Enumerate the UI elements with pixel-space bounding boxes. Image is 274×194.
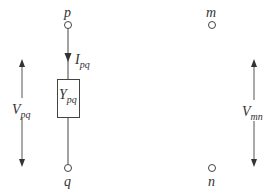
- label-voltage-vmn: Vmn: [242, 103, 263, 119]
- terminal-p: [65, 22, 72, 29]
- element-symbol: Y: [59, 87, 67, 102]
- terminal-n: [209, 165, 216, 172]
- arrow-down-icon: [251, 159, 257, 167]
- voltage-symbol: V: [242, 104, 251, 119]
- element-subscript: pq: [67, 94, 77, 105]
- terminal-m: [209, 22, 216, 29]
- voltage-subscript: pq: [21, 109, 31, 120]
- label-node-m: m: [206, 6, 216, 20]
- arrow-up-icon: [251, 59, 257, 67]
- label-node-q: q: [64, 175, 71, 189]
- label-voltage-vpq: Vpq: [12, 101, 31, 117]
- diagram-canvas: [0, 0, 274, 194]
- label-node-p: p: [64, 6, 71, 20]
- current-symbol: I: [75, 52, 80, 67]
- label-node-n: n: [208, 175, 215, 189]
- arrow-up-icon: [19, 59, 25, 67]
- terminal-q: [65, 165, 72, 172]
- arrow-down-icon: [19, 159, 25, 167]
- current-arrowhead: [65, 53, 72, 62]
- voltage-subscript: mn: [251, 111, 263, 122]
- label-element-ypq: Ypq: [59, 86, 77, 102]
- label-current-ipq: Ipq: [75, 51, 90, 67]
- current-subscript: pq: [80, 59, 90, 70]
- voltage-symbol: V: [12, 102, 21, 117]
